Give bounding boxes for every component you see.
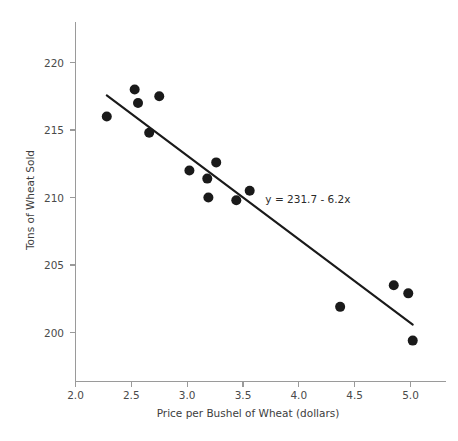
y-tick-label-200: 200 xyxy=(44,327,64,339)
data-point xyxy=(202,174,212,184)
data-point xyxy=(389,280,399,290)
x-tick-label-5-0: 5.0 xyxy=(402,389,419,401)
x-tick-label-4-5: 4.5 xyxy=(346,389,363,401)
data-point xyxy=(408,336,418,346)
x-axis-ticks xyxy=(76,382,411,388)
x-tick-label-3-0: 3.0 xyxy=(179,389,196,401)
y-tick-label-205: 205 xyxy=(44,259,64,271)
y-axis-tick-labels: 220 215 210 205 200 xyxy=(44,57,64,339)
x-axis-tick-labels: 2.0 2.5 3.0 3.5 4.0 4.5 5.0 xyxy=(67,389,419,401)
data-point xyxy=(144,128,154,138)
y-tick-label-210: 210 xyxy=(44,192,64,204)
y-axis-title: Tons of Wheat Sold xyxy=(24,150,36,251)
data-point xyxy=(130,85,140,95)
plot-area: 220 215 210 205 200 2.0 2.5 3.0 3.5 4.0 … xyxy=(0,0,458,441)
data-point xyxy=(203,193,213,203)
trendline-equation-label: y = 231.7 - 6.2x xyxy=(265,193,350,205)
x-tick-label-2-5: 2.5 xyxy=(123,389,140,401)
y-axis-ticks xyxy=(70,63,76,333)
data-point xyxy=(154,91,164,101)
x-tick-label-3-5: 3.5 xyxy=(235,389,252,401)
data-point xyxy=(335,302,345,312)
x-tick-label-4-0: 4.0 xyxy=(290,389,307,401)
data-point xyxy=(133,98,143,108)
scatter-chart: 220 215 210 205 200 2.0 2.5 3.0 3.5 4.0 … xyxy=(0,0,458,441)
data-points-group xyxy=(102,85,418,346)
y-tick-label-215: 215 xyxy=(44,124,64,136)
y-tick-label-220: 220 xyxy=(44,57,64,69)
data-point xyxy=(184,166,194,176)
x-axis-title: Price per Bushel of Wheat (dollars) xyxy=(157,407,340,419)
data-point xyxy=(102,112,112,122)
x-tick-label-2-0: 2.0 xyxy=(67,389,84,401)
data-point xyxy=(231,195,241,205)
data-point xyxy=(211,157,221,167)
data-point xyxy=(245,186,255,196)
data-point xyxy=(403,288,413,298)
